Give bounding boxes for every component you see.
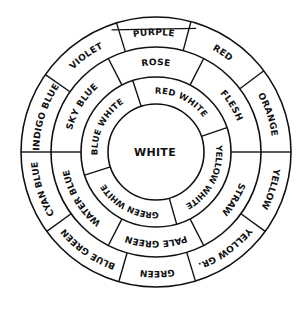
outer-divider (187, 252, 196, 281)
middle-segment-rose: ROSE (141, 57, 171, 68)
middle-segment-pale-green: PALE GREEN (124, 233, 189, 248)
outer-segment-purple: PURPLE (132, 27, 175, 39)
outer-segment-red: RED (211, 43, 235, 63)
color-wheel-diagram: PURPLEREDORANGEYELLOWYELLOW GR.GREENBLUE… (0, 0, 299, 314)
middle-segment-sky-blue: SKY BLUE (64, 81, 100, 131)
middle-divider (108, 219, 122, 246)
inner-segment-blue-white: BLUE WHITE (89, 96, 125, 155)
outer-segment-blue-green: BLUE GREEN (59, 226, 117, 271)
middle-divider (108, 58, 122, 85)
outer-segment-yellow-gr: YELLOW GR. (197, 225, 255, 270)
inner-divider (169, 198, 176, 224)
middle-divider (190, 219, 204, 246)
middle-divider (190, 58, 204, 85)
outer-segment-yellow: YELLOW (259, 167, 282, 211)
inner-segment-green-white: GREEN WHITE (98, 182, 159, 220)
outer-divider (117, 23, 126, 52)
inner-divider (133, 81, 141, 107)
outer-divider (183, 22, 191, 51)
inner-segment-red-white: RED WHITE (155, 85, 210, 119)
outer-divider (240, 71, 264, 89)
outer-segment-green: GREEN (139, 267, 175, 278)
outer-divider (119, 253, 127, 282)
inner-divider (201, 128, 227, 137)
inner-divider (85, 167, 111, 175)
outer-segment-orange: ORANGE (256, 91, 280, 137)
center-label-white: WHITE (134, 146, 176, 159)
